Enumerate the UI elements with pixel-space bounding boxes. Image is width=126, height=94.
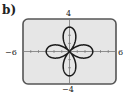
y-max-label: 4 <box>66 9 71 18</box>
chart: b) 4 −4 −6 6 <box>0 0 126 94</box>
panel-label: b) <box>2 3 16 17</box>
x-max-label: 6 <box>118 48 123 57</box>
x-min-label: −6 <box>5 48 17 57</box>
y-min-label: −4 <box>62 85 74 94</box>
